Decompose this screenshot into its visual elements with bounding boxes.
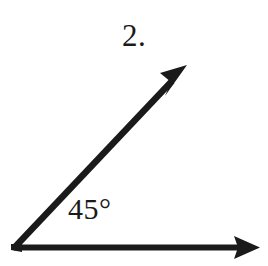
problem-number-label: 2. — [0, 20, 268, 51]
angle-vertex — [11, 244, 22, 252]
angle-measure-label: 45° — [68, 194, 112, 224]
angle-diagram-figure: 2. 45° — [0, 0, 268, 266]
